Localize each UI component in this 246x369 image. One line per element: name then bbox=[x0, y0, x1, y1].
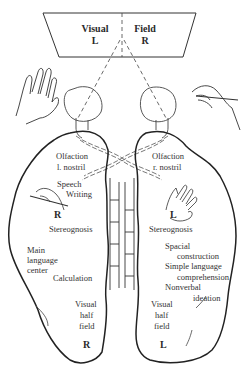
visual-field-left-label: L bbox=[88, 36, 102, 46]
writing-label: Writing bbox=[66, 190, 92, 200]
right-half-label: half bbox=[155, 311, 168, 321]
writing-hand-icon bbox=[30, 188, 68, 210]
left-visual-label: Visual bbox=[75, 300, 97, 310]
visual-field-title-left: Visual bbox=[80, 24, 110, 34]
left-eye-icon bbox=[64, 87, 102, 138]
left-half-label: half bbox=[80, 311, 93, 321]
left-stereognosis-label: Stereognosis bbox=[49, 225, 92, 235]
left-hand-open-icon bbox=[16, 68, 59, 124]
left-field-label: field bbox=[79, 322, 95, 332]
ideation-label: ideation bbox=[193, 294, 220, 304]
sulcus-mark bbox=[186, 330, 192, 346]
right-stereognosis-label: Stereognosis bbox=[149, 225, 192, 235]
left-hemisphere-side-label: R bbox=[83, 340, 90, 350]
brain-diagram bbox=[0, 0, 246, 369]
left-nostril-label: l. nostril bbox=[57, 163, 85, 173]
right-hand-side-label: L bbox=[170, 210, 177, 220]
right-eye-icon bbox=[140, 87, 176, 138]
calculation-label: Calculation bbox=[53, 274, 92, 284]
right-nostril-label: r. nostril bbox=[153, 163, 181, 173]
simple-language-label: Simple language bbox=[165, 262, 222, 272]
nonverbal-label: Nonverbal bbox=[165, 283, 201, 293]
left-hand-side-label: R bbox=[54, 210, 61, 220]
right-hemisphere-side-label: L bbox=[160, 340, 167, 350]
corpus-callosum-icon bbox=[110, 178, 134, 290]
center-label: center bbox=[27, 266, 48, 276]
right-visual-label: Visual bbox=[151, 300, 173, 310]
right-hand-writing-icon bbox=[192, 86, 240, 130]
right-olfaction-label: Olfaction bbox=[152, 152, 184, 162]
right-field-label: field bbox=[154, 322, 170, 332]
left-olfaction-label: Olfaction bbox=[56, 152, 88, 162]
visual-field-panel bbox=[43, 13, 196, 57]
visual-field-title-right: Field bbox=[130, 24, 160, 34]
visual-field-right-label: R bbox=[138, 36, 152, 46]
